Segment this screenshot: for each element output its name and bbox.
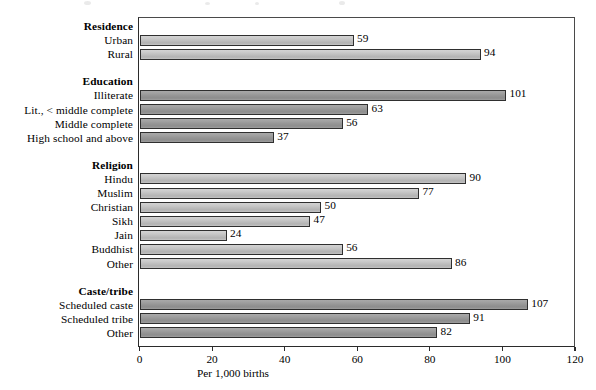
bar-row-label: Other bbox=[0, 257, 133, 271]
bar-row: Rural94 bbox=[0, 47, 596, 61]
bar-container bbox=[140, 202, 322, 213]
bar-row: Illiterate101 bbox=[0, 88, 596, 102]
bar-row: Middle complete56 bbox=[0, 117, 596, 131]
bar-row: Christian50 bbox=[0, 200, 596, 214]
x-axis-tick-label: 60 bbox=[352, 351, 363, 367]
x-axis-tick-label: 20 bbox=[206, 351, 217, 367]
bar-row-label: Rural bbox=[0, 47, 133, 61]
x-axis-title: Per 1,000 births bbox=[0, 366, 596, 380]
bar-row: Other86 bbox=[0, 257, 596, 271]
bar-row: Muslim77 bbox=[0, 186, 596, 200]
bar-row-label: Scheduled caste bbox=[0, 298, 133, 312]
bar-row: Scheduled tribe91 bbox=[0, 312, 596, 326]
scan-artifact bbox=[205, 2, 210, 5]
group-header-label: Religion bbox=[0, 158, 133, 172]
bar bbox=[140, 104, 369, 115]
bar-container bbox=[140, 173, 467, 184]
bar-row: Urban59 bbox=[0, 33, 596, 47]
bar-row-label: Urban bbox=[0, 33, 133, 47]
bar-container bbox=[140, 188, 419, 199]
bar-row: High school and above37 bbox=[0, 131, 596, 145]
bar-value-label: 24 bbox=[230, 227, 241, 241]
bar-row-label: Buddhist bbox=[0, 242, 133, 256]
bar-value-label: 56 bbox=[346, 241, 357, 255]
bar-row: Other82 bbox=[0, 326, 596, 340]
bar-row-label: Christian bbox=[0, 200, 133, 214]
bar-row: Lit., < middle complete63 bbox=[0, 103, 596, 117]
bar-row-label: Scheduled tribe bbox=[0, 312, 133, 326]
scan-antml bbox=[255, 2, 259, 5]
bar-container bbox=[140, 118, 343, 129]
group-header-religion: Religion bbox=[0, 158, 596, 172]
x-axis-tick-label: 40 bbox=[279, 351, 290, 367]
bar-row: Buddhist56 bbox=[0, 242, 596, 256]
bar-row: Scheduled caste107 bbox=[0, 298, 596, 312]
scan-artifact bbox=[339, 1, 345, 5]
bar-container bbox=[140, 216, 311, 227]
bar-value-label: 47 bbox=[314, 213, 325, 227]
bar bbox=[140, 230, 227, 241]
bar bbox=[140, 35, 354, 46]
x-axis-tick-label: 120 bbox=[567, 351, 584, 367]
x-axis-title-text: Per 1,000 births bbox=[197, 367, 269, 379]
bar-row-label: Jain bbox=[0, 228, 133, 242]
bar-row-label: Other bbox=[0, 326, 133, 340]
group-header-label: Caste/tribe bbox=[0, 284, 133, 298]
bar-row-label: Middle complete bbox=[0, 117, 133, 131]
bar bbox=[140, 216, 311, 227]
bar-container bbox=[140, 90, 507, 101]
bar-container bbox=[140, 258, 452, 269]
bar-row-label: High school and above bbox=[0, 131, 133, 145]
x-axis-tick-label: 0 bbox=[137, 351, 143, 367]
bar-value-label: 59 bbox=[357, 32, 368, 46]
bar-container bbox=[140, 313, 470, 324]
group-header-caste-tribe: Caste/tribe bbox=[0, 284, 596, 298]
bar-container bbox=[140, 299, 528, 310]
bar bbox=[140, 118, 343, 129]
bar-row-label: Sikh bbox=[0, 214, 133, 228]
bar-container bbox=[140, 35, 354, 46]
bar-container bbox=[140, 244, 343, 255]
bar-row-label: Illiterate bbox=[0, 88, 133, 102]
bar-value-label: 82 bbox=[441, 325, 452, 339]
bar-value-label: 107 bbox=[531, 297, 548, 311]
bar bbox=[140, 327, 438, 338]
scan-artifact bbox=[84, 1, 91, 5]
bar bbox=[140, 49, 481, 60]
bar-row: Sikh47 bbox=[0, 214, 596, 228]
bar-value-label: 90 bbox=[470, 171, 481, 185]
bar-value-label: 91 bbox=[473, 311, 484, 325]
group-header-residence: Residence bbox=[0, 19, 596, 33]
bar-value-label: 94 bbox=[484, 46, 495, 60]
bar-value-label: 86 bbox=[455, 256, 466, 270]
bar-row: Hindu90 bbox=[0, 172, 596, 186]
bar-container bbox=[140, 230, 227, 241]
bar-value-label: 77 bbox=[422, 185, 433, 199]
bar-container bbox=[140, 327, 438, 338]
x-axis-tick-labels: 020406080100120 bbox=[0, 351, 596, 367]
bar bbox=[140, 258, 452, 269]
bar bbox=[140, 132, 274, 143]
bar-value-label: 37 bbox=[277, 130, 288, 144]
bar-value-label: 56 bbox=[346, 116, 357, 130]
bar-value-label: 50 bbox=[325, 199, 336, 213]
bar bbox=[140, 244, 343, 255]
bar bbox=[140, 90, 507, 101]
group-header-education: Education bbox=[0, 74, 596, 88]
bar-value-label: 101 bbox=[510, 87, 527, 101]
bar bbox=[140, 188, 419, 199]
bar bbox=[140, 173, 467, 184]
bar bbox=[140, 202, 322, 213]
bar bbox=[140, 313, 470, 324]
bar-value-label: 63 bbox=[372, 102, 383, 116]
group-header-label: Education bbox=[0, 74, 133, 88]
x-axis-tick-label: 80 bbox=[424, 351, 435, 367]
group-header-label: Residence bbox=[0, 19, 133, 33]
x-axis-tick-label: 100 bbox=[494, 351, 511, 367]
bar-row-label: Lit., < middle complete bbox=[0, 103, 133, 117]
bar-row-label: Muslim bbox=[0, 186, 133, 200]
bar-row: Jain24 bbox=[0, 228, 596, 242]
bar-row-label: Hindu bbox=[0, 172, 133, 186]
bar-container bbox=[140, 104, 369, 115]
bar-container bbox=[140, 49, 481, 60]
